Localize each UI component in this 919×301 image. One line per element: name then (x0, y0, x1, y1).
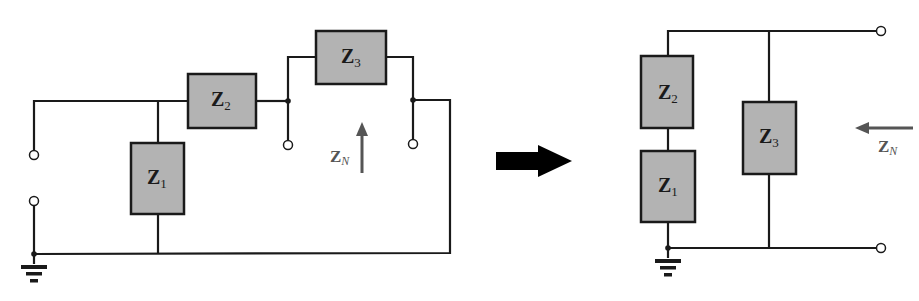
zn-arrow-up-icon (356, 122, 368, 173)
node-dot (410, 97, 416, 103)
terminal-circle (284, 141, 293, 150)
zn-label: ZN (330, 147, 350, 168)
left-circuit (21, 31, 450, 283)
zn-arrow-left-icon (855, 122, 913, 134)
terminal-circle (877, 244, 886, 253)
zn-label: ZN (878, 137, 898, 158)
terminal-circle (409, 140, 418, 149)
ground-icon (21, 265, 47, 283)
node-dot (285, 98, 291, 104)
terminal-circle (30, 151, 39, 160)
transform-arrow-icon (496, 145, 572, 177)
node-dot (665, 245, 671, 251)
terminal-circle (877, 27, 886, 36)
ground-icon (655, 259, 681, 277)
right-circuit (641, 27, 913, 277)
circuit-diagram: Z1 Z2 Z3 ZN Z2 Z1 Z3 ZN (0, 0, 919, 301)
node-dot (31, 251, 37, 257)
terminal-circle (30, 197, 39, 206)
